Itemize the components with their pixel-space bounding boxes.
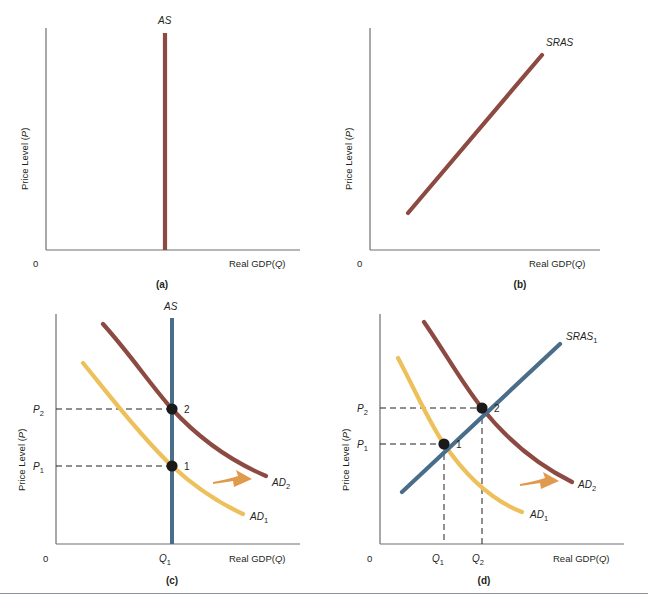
panel-d-q1-tick-sub: 1 — [440, 558, 444, 567]
panel-d: 2 1 SRAS1 AD2 AD1 P2 — [324, 296, 648, 588]
panel-b-y-axis-label: Price Level (P) — [343, 128, 354, 190]
panel-c-ad2-label-text: AD — [271, 477, 286, 488]
panel-b-sras-curve — [408, 55, 542, 213]
panel-a-x-label-text: Real GDP( — [229, 258, 276, 269]
panel-c-ad1-label-sub: 1 — [264, 516, 268, 525]
figure-bottom-rule — [0, 593, 648, 594]
panel-d-p1-tick-sub: 1 — [364, 444, 368, 453]
panel-d-caption: (d) — [478, 575, 491, 586]
panel-a: AS 0 Price Level (P) Real GDP(Q) (a) — [0, 0, 324, 292]
panel-d-p2-tick-sub: 2 — [364, 408, 368, 417]
panel-a-origin-label: 0 — [33, 258, 38, 269]
panel-d-y-axis-label: Price Level (P) — [340, 429, 351, 491]
panel-b: SRAS 0 Price Level (P) Real GDP(Q) (b) — [324, 0, 648, 292]
panel-a-x-label-end: ) — [282, 258, 285, 269]
svg-text:Price Level (P): Price Level (P) — [19, 128, 30, 190]
panel-b-caption: (b) — [514, 279, 527, 290]
panel-a-as-label: AS — [157, 15, 172, 26]
panel-d-y-label-text: Price Level ( — [340, 437, 351, 491]
svg-text:Price Level (P): Price Level (P) — [340, 429, 351, 491]
panel-b-y-label-text: Price Level ( — [343, 136, 354, 190]
panel-c-ad2-curve — [103, 324, 266, 476]
panel-c-q1-tick-sub: 1 — [167, 558, 171, 567]
panel-d-sras1-label-text: SRAS — [566, 331, 594, 342]
panel-d-ad1-label-sub: 1 — [544, 514, 548, 523]
panel-d-point-2-label: 2 — [494, 403, 500, 414]
panel-c-y-axis-label: Price Level (P) — [16, 429, 27, 491]
panel-d-shift-arrow — [520, 472, 559, 489]
panel-d-x-axis-label: Real GDP(Q) — [553, 553, 610, 564]
panel-c-equilibrium-point-1 — [166, 460, 177, 471]
panel-d-sras1-label: SRAS1 — [566, 331, 597, 345]
panel-c-p2-tick-label: P2 — [33, 404, 44, 418]
panel-c-x-axis-label: Real GDP(Q) — [229, 553, 286, 564]
panel-a-y-label-end: ) — [19, 128, 30, 131]
panel-a-y-label-text: Price Level ( — [19, 136, 30, 190]
panel-b-sras-label: SRAS — [546, 37, 574, 48]
panel-c-ad1-label-text: AD — [249, 511, 264, 522]
panel-d-equilibrium-point-1 — [438, 438, 449, 449]
panel-c-ad1-curve — [83, 363, 243, 514]
panel-a-y-axis-label: Price Level (P) — [19, 128, 30, 190]
panel-c: 2 1 AS AD2 AD1 P2 P1 — [0, 296, 324, 588]
panel-c-ad1-label: AD1 — [249, 511, 268, 525]
panel-a-x-axis-label: Real GDP(Q) — [229, 258, 286, 269]
panel-b-x-label-end: ) — [582, 258, 585, 269]
panel-c-origin-label: 0 — [43, 553, 48, 564]
panel-a-caption: (a) — [156, 279, 168, 290]
panel-d-origin-label: 0 — [367, 553, 372, 564]
panel-d-sras1-curve — [402, 344, 560, 492]
panel-c-y-label-end: ) — [16, 429, 27, 432]
panel-b-y-label-end: ) — [343, 128, 354, 131]
panel-c-q1-tick-label: Q1 — [159, 553, 171, 567]
panel-b-x-axis-label: Real GDP(Q) — [529, 258, 586, 269]
panel-d-q1-tick-label: Q1 — [432, 553, 444, 567]
panel-c-x-label-text: Real GDP( — [229, 553, 276, 564]
panel-d-p2-tick-label: P2 — [357, 403, 368, 417]
panel-c-x-label-end: ) — [282, 553, 285, 564]
panel-d-ad2-label-sub: 2 — [592, 484, 596, 493]
panel-c-point-2-label: 2 — [184, 404, 190, 415]
panel-c-caption: (c) — [166, 575, 178, 586]
panel-c-p1-tick-sub: 1 — [40, 466, 44, 475]
panel-c-p1-tick-label: P1 — [33, 461, 44, 475]
panel-d-q2-tick-sub: 2 — [480, 558, 484, 567]
panel-d-ad1-label: AD1 — [529, 509, 548, 523]
panel-c-ad2-label-sub: 2 — [286, 482, 290, 491]
panel-c-ad2-label: AD2 — [271, 477, 290, 491]
panel-d-equilibrium-point-2 — [476, 402, 487, 413]
panel-d-ad2-label-text: AD — [577, 479, 592, 490]
panel-d-ad1-label-text: AD — [529, 509, 544, 520]
panel-b-x-label-text: Real GDP( — [529, 258, 576, 269]
panel-d-x-label-text: Real GDP( — [553, 553, 600, 564]
panel-d-point-1-label: 1 — [456, 439, 462, 450]
panel-c-equilibrium-point-2 — [166, 403, 177, 414]
panel-d-y-label-end: ) — [340, 429, 351, 432]
panel-d-sras1-label-sub: 1 — [593, 336, 597, 345]
panel-d-x-label-end: ) — [606, 553, 609, 564]
panel-c-p2-tick-sub: 2 — [40, 409, 44, 418]
aggregate-supply-demand-figure: AS 0 Price Level (P) Real GDP(Q) (a) — [0, 0, 648, 602]
panel-d-ad2-label: AD2 — [577, 479, 596, 493]
svg-text:Price Level (P): Price Level (P) — [16, 429, 27, 491]
panel-d-q2-tick-label: Q2 — [472, 553, 484, 567]
panel-d-p1-tick-label: P1 — [357, 439, 368, 453]
panel-c-point-1-label: 1 — [184, 461, 190, 472]
panel-c-shift-arrow — [213, 470, 252, 487]
panel-c-as-label: AS — [163, 301, 178, 312]
panel-b-origin-label: 0 — [357, 258, 362, 269]
svg-text:Price Level (P): Price Level (P) — [343, 128, 354, 190]
panel-c-y-label-text: Price Level ( — [16, 437, 27, 491]
